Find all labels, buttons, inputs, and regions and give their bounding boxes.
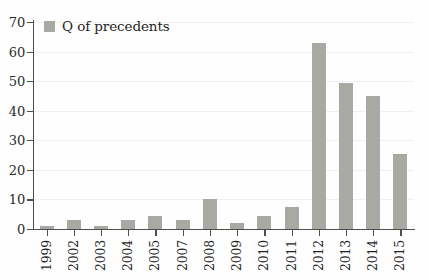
bar-2007 xyxy=(176,220,190,229)
x-tick-label-2011: 2011 xyxy=(286,240,299,271)
bar-chart: 010203040506070 199920022003200420052007… xyxy=(0,0,429,280)
chart-legend: Q of precedents xyxy=(44,20,170,34)
x-tick-mark-1999 xyxy=(47,230,48,236)
x-tick-label-2009: 2009 xyxy=(231,240,244,271)
y-tick-label-50: 50 xyxy=(0,75,25,88)
bar-2009 xyxy=(230,223,244,230)
y-tick-label-10: 10 xyxy=(0,193,25,206)
x-tick-label-2004: 2004 xyxy=(122,240,135,271)
x-tick-label-2008: 2008 xyxy=(204,240,217,271)
y-tick-label-30: 30 xyxy=(0,134,25,147)
y-tick-label-0: 0 xyxy=(0,223,25,236)
x-tick-label-1999: 1999 xyxy=(41,240,54,271)
x-tick-mark-2007 xyxy=(183,230,184,236)
bar-2004 xyxy=(121,220,135,229)
x-axis-line xyxy=(33,229,415,230)
x-tick-mark-2009 xyxy=(237,230,238,236)
x-tick-label-2007: 2007 xyxy=(177,240,190,271)
x-tick-label-2003: 2003 xyxy=(95,240,108,271)
bar-2010 xyxy=(257,216,271,229)
y-tick-label-70: 70 xyxy=(0,16,25,29)
bar-2003 xyxy=(94,226,108,229)
y-tick-label-40: 40 xyxy=(0,105,25,118)
bars-layer xyxy=(33,18,415,229)
x-tick-label-2002: 2002 xyxy=(68,240,81,271)
x-tick-mark-2008 xyxy=(210,230,211,236)
bar-2002 xyxy=(67,220,81,229)
x-tick-label-2010: 2010 xyxy=(258,240,271,271)
x-tick-label-2005: 2005 xyxy=(149,240,162,271)
x-tick-label-2015: 2015 xyxy=(394,240,407,271)
x-tick-label-2013: 2013 xyxy=(340,240,353,271)
x-tick-mark-2012 xyxy=(319,230,320,236)
x-tick-mark-2002 xyxy=(74,230,75,236)
y-tick-label-60: 60 xyxy=(0,46,25,59)
x-tick-label-2014: 2014 xyxy=(367,240,380,271)
x-tick-mark-2004 xyxy=(128,230,129,236)
bar-2011 xyxy=(285,207,299,229)
x-tick-mark-2014 xyxy=(373,230,374,236)
x-tick-mark-2011 xyxy=(292,230,293,236)
bar-2008 xyxy=(203,199,217,229)
x-tick-mark-2003 xyxy=(101,230,102,236)
x-tick-mark-2005 xyxy=(155,230,156,236)
bar-2012 xyxy=(312,43,326,229)
bar-2005 xyxy=(148,216,162,229)
legend-swatch-q-of-precedents xyxy=(44,21,55,32)
legend-label-q-of-precedents: Q of precedents xyxy=(62,20,170,34)
x-tick-mark-2015 xyxy=(400,230,401,236)
bar-2015 xyxy=(393,154,407,229)
bar-2013 xyxy=(339,83,353,229)
x-tick-label-2012: 2012 xyxy=(313,240,326,271)
x-tick-mark-2013 xyxy=(346,230,347,236)
bar-2014 xyxy=(366,96,380,229)
y-tick-mark-0 xyxy=(27,229,33,230)
bar-1999 xyxy=(40,226,54,229)
x-tick-mark-2010 xyxy=(264,230,265,236)
y-tick-label-20: 20 xyxy=(0,164,25,177)
